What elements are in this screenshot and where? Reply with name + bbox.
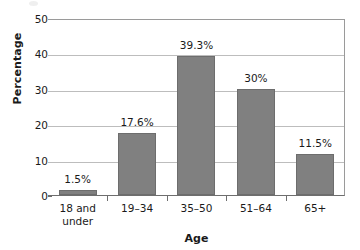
bar-value-label: 39.3% [180,40,213,51]
x-axis-title: Age [48,232,345,245]
x-axis-tick-mark [167,196,168,201]
bar-value-label: 30% [244,73,267,84]
bar-value-label: 17.6% [120,117,153,128]
x-axis-category-label: 51–64 [226,202,285,215]
x-axis-category-label-line: 19–34 [107,202,166,215]
x-axis-category-label: 18 andunder [48,202,107,228]
bar-slot: 30% [226,20,285,195]
x-axis-category-label-line: 51–64 [226,202,285,215]
y-axis-tick-label: 0 [8,191,48,201]
y-axis-tick-label: 30 [8,85,48,95]
bar-value-label: 1.5% [64,174,91,185]
bar[interactable] [118,133,156,195]
x-axis-tick-mark [286,196,287,201]
y-axis-tick-label: 10 [8,156,48,166]
x-axis-category-label: 19–34 [107,202,166,215]
scan-artifact [29,1,38,6]
y-axis-tick-label: 40 [8,49,48,59]
x-axis-category-label-line: 65+ [286,202,345,215]
bar[interactable] [237,89,275,195]
x-axis-tick-mark [107,196,108,201]
plot-area: 1.5%17.6%39.3%30%11.5% [48,19,345,196]
bar[interactable] [177,56,215,195]
y-axis-tick-label: 20 [8,120,48,130]
x-axis-category-label: 65+ [286,202,345,215]
x-axis-ticks [48,196,345,201]
bar-slot: 39.3% [167,20,226,195]
x-axis-category-labels: 18 andunder19–3435–5051–6465+ [48,202,345,236]
x-axis-category-label-line: under [48,215,107,228]
bar-slot: 11.5% [286,20,345,195]
bar[interactable] [59,190,97,195]
bar-value-label: 11.5% [299,138,332,149]
bar-slot: 1.5% [48,20,107,195]
bar-slot: 17.6% [107,20,166,195]
bar-chart: Percentage 01020304050 1.5%17.6%39.3%30%… [0,0,360,250]
x-axis-category-label-line: 18 and [48,202,107,215]
bar-series: 1.5%17.6%39.3%30%11.5% [48,20,344,195]
y-axis-tick-labels: 01020304050 [0,19,48,196]
x-axis-tick-mark [226,196,227,201]
x-axis-category-label: 35–50 [167,202,226,215]
bar[interactable] [296,154,334,195]
x-axis-category-label-line: 35–50 [167,202,226,215]
y-axis-tick-label: 50 [8,14,48,24]
